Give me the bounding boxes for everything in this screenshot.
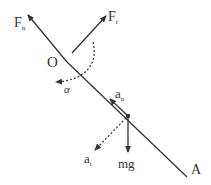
label-o: O	[47, 54, 58, 70]
physics-diagram: Fn Ft O α an at mg A	[0, 0, 211, 185]
alpha-arc	[56, 42, 94, 82]
at-arrow	[95, 118, 126, 150]
label-alpha: α	[64, 83, 70, 95]
label-a-point: A	[191, 162, 202, 177]
label-mg: mg	[118, 156, 135, 171]
label-at: at	[84, 151, 92, 168]
label-fn: Fn	[14, 15, 26, 32]
ft-arrow	[72, 16, 106, 53]
an-arrow	[110, 99, 128, 116]
label-an: an	[115, 86, 125, 103]
label-ft: Ft	[108, 9, 118, 26]
